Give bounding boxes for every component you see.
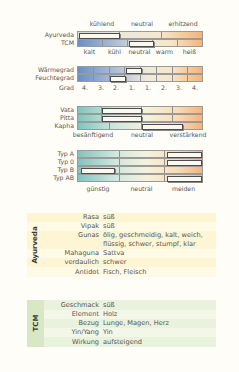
tick: 3.	[171, 84, 187, 92]
tcm-title: TCM	[32, 303, 40, 343]
tick: 1.	[124, 84, 140, 92]
typ-0-scale	[77, 158, 203, 166]
label-guenstig: günstig	[77, 185, 119, 193]
ayurveda-scale	[77, 31, 203, 39]
value-verdaulich: schwer	[103, 258, 126, 266]
value-vipak: süß	[103, 222, 115, 230]
tcm-side-tab: TCM	[27, 300, 44, 347]
value-wirkung: aufsteigend	[103, 338, 142, 346]
value-antidot: Fisch, Fleisch	[103, 268, 146, 276]
key-element: Element	[44, 310, 99, 318]
key-mahaguna: Mahaguna	[44, 249, 99, 257]
feuchtegrad-scale	[77, 74, 203, 82]
pitta-scale	[77, 114, 203, 122]
waermegrad-scale	[77, 66, 203, 74]
value-rasa: süß	[103, 213, 115, 221]
row-label-typ-a: Typ A	[20, 150, 74, 158]
tick: 4.	[77, 84, 93, 92]
typ-a-scale	[77, 150, 203, 158]
label-kuehlend: kühlend	[82, 20, 122, 28]
row-label-vata: Vata	[20, 106, 74, 114]
tick: 2.	[156, 84, 172, 92]
key-geschmack: Geschmack	[44, 301, 99, 309]
tick: 4.	[187, 84, 203, 92]
row-label-ayurveda: Ayurveda	[20, 31, 74, 39]
value-gunas: ölig, geschmeidig, kalt, weich,	[103, 231, 203, 239]
tcm-scale	[77, 39, 203, 47]
label-warm: warm	[152, 48, 177, 56]
key-vipak: Vipak	[44, 222, 99, 230]
typ-ab-bar	[167, 176, 202, 182]
label-heiss: heiß	[177, 48, 202, 56]
feuchtegrad-bar	[110, 76, 126, 82]
key-bezug: Bezug	[44, 319, 99, 327]
label-neutral-tcm: neutral	[127, 48, 152, 56]
value-yin-yang: Yin	[103, 328, 113, 336]
row-label-waermegrad: Wärmegrad	[10, 66, 74, 74]
label-neutral-blood: neutral	[119, 185, 164, 193]
label-kuehl: kühl	[102, 48, 127, 56]
kapha-bar	[142, 124, 183, 130]
key-rasa: Rasa	[44, 213, 99, 221]
vata-scale	[77, 106, 203, 114]
label-meiden: meiden	[164, 185, 203, 193]
ayurveda-side-tab: Ayurveda	[27, 222, 44, 268]
key-verdaulich: verdaulich	[44, 258, 99, 266]
typ-b-scale	[77, 166, 203, 174]
row-label-pitta: Pitta	[20, 114, 74, 122]
typ-ab-scale	[77, 174, 203, 182]
kapha-scale	[77, 122, 203, 130]
value-geschmack: süß	[103, 301, 115, 309]
tick: 3.	[93, 84, 109, 92]
key-antidot: Antidot	[44, 268, 99, 276]
label-neutral-dosha: neutral	[122, 131, 162, 139]
label-neutral: neutral	[122, 20, 162, 28]
row-label-typ-0: Typ 0	[20, 158, 74, 166]
tcm-bar	[129, 41, 154, 47]
label-kalt: kalt	[77, 48, 102, 56]
value-gunas-line2: flüssig, schwer, stumpf, klar	[103, 240, 196, 248]
tick: 1.	[140, 84, 156, 92]
value-bezug: Lunge, Magen, Herz	[103, 319, 169, 327]
key-yin-yang: Yin/Yang	[44, 328, 99, 336]
tick: 2.	[108, 84, 124, 92]
key-gunas: Gunas	[44, 231, 99, 239]
label-verstaerkend: verstärkend	[167, 131, 209, 139]
row-label-typ-b: Typ B	[20, 166, 74, 174]
row-label-feuchtegrad: Feuchtegrad	[10, 74, 74, 82]
row-label-kapha: Kapha	[20, 122, 74, 130]
axis-label-grad: Grad	[10, 84, 74, 92]
value-mahaguna: Sattva	[103, 249, 124, 257]
key-wirkung: Wirkung	[44, 338, 99, 346]
row-label-typ-ab: Typ AB	[20, 174, 74, 182]
label-erhitzend: erhitzend	[163, 20, 203, 28]
value-element: Holz	[103, 310, 117, 318]
row-label-tcm: TCM	[20, 39, 74, 47]
label-besaenftigend: besänftigend	[70, 131, 116, 139]
ayurveda-title: Ayurveda	[31, 225, 39, 265]
